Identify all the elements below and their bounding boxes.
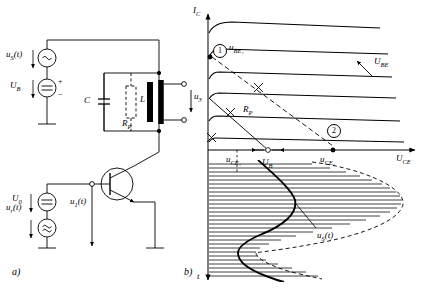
collector-branch bbox=[134, 131, 159, 166]
operating-point-2 bbox=[331, 148, 336, 153]
base-terminal bbox=[90, 182, 95, 187]
label-panel-a: a) bbox=[12, 267, 20, 277]
transformer-output bbox=[161, 80, 191, 124]
static-load-line-hatches bbox=[207, 108, 235, 142]
dc-source0-symbol bbox=[38, 193, 56, 211]
label-ube-family: UBE bbox=[374, 57, 388, 68]
label-waveform-us: uS(t) bbox=[317, 231, 333, 242]
label-resistor-rp: RP bbox=[122, 119, 131, 130]
marker-circle-2: 2 bbox=[327, 124, 341, 138]
ac-source-r-glyph-top bbox=[43, 225, 52, 228]
dynamic-load-line bbox=[212, 57, 333, 146]
output-terminal-bottom bbox=[182, 118, 187, 123]
output-terminal-top bbox=[182, 82, 187, 87]
label-capacitor: C bbox=[84, 96, 90, 105]
label-source-signal: uS(t) bbox=[6, 50, 22, 61]
circuit-panel-a bbox=[31, 40, 191, 248]
hatching-lines bbox=[209, 164, 402, 276]
wire-collector-diag bbox=[134, 152, 159, 166]
marker-circle-1: 1 bbox=[213, 44, 227, 58]
curve-ube-4 bbox=[209, 72, 392, 79]
operating-point-1 bbox=[208, 55, 213, 60]
label-arrows bbox=[31, 50, 33, 238]
label-polarity-plus: + bbox=[58, 78, 63, 86]
label-inductor: L bbox=[140, 95, 145, 104]
waveform-region bbox=[209, 160, 403, 282]
label-tick-uce1: uCE₁ bbox=[226, 155, 241, 166]
transistor-npn bbox=[47, 166, 164, 248]
ac-source-r-symbol bbox=[38, 219, 56, 237]
dc-source-symbol bbox=[38, 79, 56, 97]
ub-marker bbox=[256, 148, 280, 153]
curve-ube-2 bbox=[209, 116, 400, 121]
static-load-line bbox=[210, 99, 268, 150]
resistor-body bbox=[126, 86, 136, 118]
label-source-ac-r: ur(t) bbox=[6, 203, 22, 214]
label-x-axis: UCE bbox=[396, 154, 411, 165]
curve-ube-6 bbox=[209, 22, 380, 33]
ub-center-marker bbox=[266, 148, 271, 153]
label-panel-b: b) bbox=[184, 267, 192, 277]
label-y-axis: IC bbox=[193, 6, 200, 17]
curve-ube-3 bbox=[209, 93, 396, 99]
node-dot-top bbox=[157, 71, 160, 74]
figure-drawing bbox=[0, 0, 429, 295]
label-input-u1: u1(t) bbox=[70, 197, 86, 208]
ac-source-r-glyph-bottom bbox=[43, 229, 52, 232]
bias-branch bbox=[38, 184, 56, 248]
transistor-collector-lead bbox=[110, 166, 134, 178]
curve-ube-1 bbox=[209, 138, 404, 142]
label-ube1: uBE₁ bbox=[229, 43, 244, 54]
figure-root: uS(t) UB + − C RP L u3 U0 ur(t) u1(t) IC… bbox=[0, 0, 429, 295]
label-tick-ub: UB bbox=[262, 158, 272, 169]
label-polarity-minus: − bbox=[58, 91, 63, 99]
label-time-axis: t bbox=[197, 272, 200, 281]
ac-source-glyph bbox=[43, 56, 52, 59]
label-load-line-rp: RP bbox=[243, 105, 252, 116]
transistor-emitter-lead bbox=[110, 190, 134, 202]
label-output-u3: u3 bbox=[194, 92, 202, 103]
label-tick-uce2: uCE₂ bbox=[320, 155, 335, 166]
ube-direction-arrow bbox=[357, 61, 372, 76]
label-source-bias: UB bbox=[10, 81, 20, 92]
supply-branch bbox=[38, 40, 159, 124]
